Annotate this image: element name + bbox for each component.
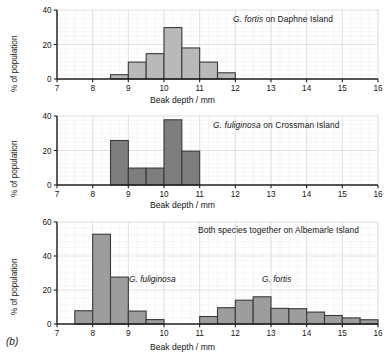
svg-text:0: 0 (47, 320, 52, 329)
svg-text:40: 40 (42, 6, 52, 15)
svg-text:12: 12 (231, 190, 241, 199)
svg-text:60: 60 (42, 218, 52, 227)
svg-text:0: 0 (47, 181, 52, 190)
figure-label: (b) (6, 336, 18, 347)
chart-panel-g-fortis-daphne: % of population G. fortis on Daphne Isla… (0, 0, 390, 107)
beak-depth-histogram-figure: % of population G. fortis on Daphne Isla… (0, 0, 390, 357)
svg-text:11: 11 (195, 329, 204, 338)
svg-text:10: 10 (159, 329, 169, 338)
chart-title-species-1: G. fuliginosa (213, 120, 261, 130)
svg-text:7: 7 (55, 190, 60, 199)
svg-text:11: 11 (195, 84, 204, 93)
svg-text:20: 20 (42, 41, 52, 50)
svg-text:0: 0 (47, 75, 52, 84)
svg-text:11: 11 (195, 190, 204, 199)
svg-text:40: 40 (42, 252, 52, 261)
annotation-g-fuliginosa: G. fuliginosa (129, 274, 176, 284)
svg-text:15: 15 (338, 84, 348, 93)
chart-panel-g-fuliginosa-crossman: % of population G. fuliginosa on Crossma… (0, 107, 390, 212)
y-axis-title-2: % of population (10, 259, 19, 315)
chart-title-species-0: G. fortis (233, 14, 263, 24)
svg-text:16: 16 (373, 190, 383, 199)
svg-text:9: 9 (126, 329, 131, 338)
svg-text:9: 9 (126, 190, 131, 199)
chart-title-2: Both species together on Albemarle Islan… (198, 225, 359, 235)
x-axis-title-0: Beak depth / mm (150, 95, 215, 105)
svg-text:8: 8 (90, 190, 95, 199)
svg-text:15: 15 (338, 329, 348, 338)
svg-text:12: 12 (231, 84, 241, 93)
svg-text:13: 13 (266, 84, 276, 93)
x-axis-title-2: Beak depth / mm (150, 342, 215, 352)
annotation-g-fortis: G. fortis (262, 274, 291, 284)
svg-text:13: 13 (266, 329, 276, 338)
svg-text:7: 7 (55, 84, 60, 93)
svg-text:7: 7 (55, 329, 60, 338)
chart-title-rest-1: on Crossman Island (261, 120, 340, 130)
x-axis-title-1: Beak depth / mm (150, 200, 215, 210)
svg-text:8: 8 (90, 329, 95, 338)
svg-text:16: 16 (373, 329, 383, 338)
svg-text:20: 20 (42, 147, 52, 156)
svg-text:14: 14 (302, 84, 312, 93)
chart-title-1: G. fuliginosa on Crossman Island (213, 120, 340, 130)
svg-text:15: 15 (338, 190, 348, 199)
chart-title-0: G. fortis on Daphne Island (233, 14, 333, 24)
svg-text:13: 13 (266, 190, 276, 199)
chart-panel-both-species-albemarle: % of population Both species together on… (0, 212, 390, 357)
chart-title-rest-2: Both species together on Albemarle Islan… (198, 225, 359, 235)
svg-text:20: 20 (42, 286, 52, 295)
svg-text:12: 12 (231, 329, 241, 338)
svg-text:10: 10 (159, 190, 169, 199)
y-axis-title-0: % of population (10, 36, 19, 92)
svg-text:8: 8 (90, 84, 95, 93)
svg-text:16: 16 (373, 84, 383, 93)
svg-text:10: 10 (159, 84, 169, 93)
chart-title-rest-0: on Daphne Island (263, 14, 333, 24)
svg-text:14: 14 (302, 329, 312, 338)
svg-text:9: 9 (126, 84, 131, 93)
svg-text:40: 40 (42, 112, 52, 121)
svg-text:14: 14 (302, 190, 312, 199)
y-axis-title-1: % of population (10, 141, 19, 197)
